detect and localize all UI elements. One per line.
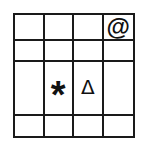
cell-r3c2: [74, 116, 104, 137]
triangle-symbol: Δ: [81, 77, 95, 97]
cell-r3c1: [45, 116, 75, 137]
cell-r1c3: [104, 41, 134, 62]
cell-r0c3: @: [104, 15, 134, 41]
cell-r3c3: [104, 116, 134, 137]
cell-r2c2: Δ: [74, 62, 104, 116]
asterisk-symbol: *: [51, 76, 66, 114]
cell-r1c0: [15, 41, 45, 62]
cell-r1c2: [74, 41, 104, 62]
cell-r3c0: [15, 116, 45, 137]
cell-r2c1: *: [45, 62, 75, 116]
symbol-grid: @ * Δ: [13, 13, 135, 138]
cell-r2c0: [15, 62, 45, 116]
cell-r0c0: [15, 15, 45, 41]
at-sign-symbol: @: [107, 15, 130, 39]
cell-r1c1: [45, 41, 75, 62]
cell-r0c2: [74, 15, 104, 41]
cell-r0c1: [45, 15, 75, 41]
cell-r2c3: [104, 62, 134, 116]
